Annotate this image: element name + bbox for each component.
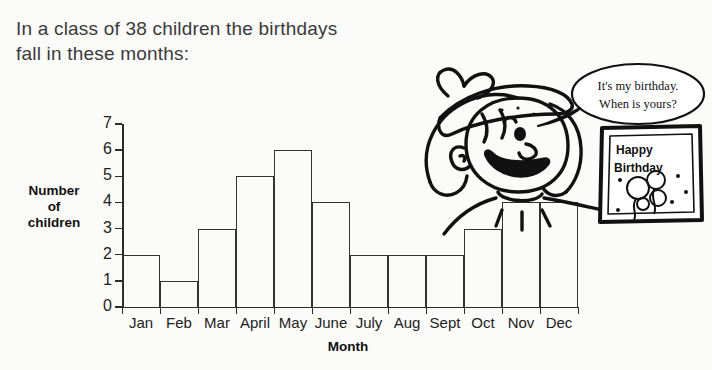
hair-left-bottom <box>430 176 467 195</box>
spark-1 <box>496 210 502 226</box>
y-tick-6 <box>115 149 122 150</box>
speech-bubble-body <box>572 64 704 124</box>
bar-june <box>312 202 350 307</box>
bar-april <box>236 176 274 307</box>
x-tick-end <box>578 307 579 314</box>
x-tick-mar <box>198 307 199 314</box>
y-tick-label-wrap-3: 3 <box>86 220 112 236</box>
x-tick-july <box>350 307 351 314</box>
birthday-card: Happy Birthday <box>600 126 702 222</box>
y-tick-label-wrap-7: 7 <box>86 115 112 131</box>
freckle-2 <box>516 106 519 109</box>
arm-left <box>444 198 496 234</box>
x-tick-label-feb: Feb <box>160 314 198 332</box>
x-tick-nov <box>502 307 503 314</box>
x-axis-title: Month <box>122 339 574 354</box>
x-tick-april <box>236 307 237 314</box>
x-tick-sept <box>426 307 427 314</box>
y-tick-label-6: 6 <box>86 141 112 157</box>
ear-inner <box>460 155 465 161</box>
y-axis-title-line-3: children <box>12 215 96 231</box>
x-tick-label-sept: Sept <box>426 314 464 332</box>
bow-left-loop <box>438 69 464 96</box>
card-line-1: Happy <box>616 143 653 157</box>
x-tick-label-june: June <box>312 314 350 332</box>
bar-feb <box>160 281 198 307</box>
y-axis-title-line-2: of <box>12 199 96 215</box>
fringe-2 <box>500 110 505 138</box>
x-tick-label-may: May <box>274 314 312 332</box>
y-tick-label-2: 2 <box>86 246 112 262</box>
y-tick-label-7: 7 <box>86 115 112 131</box>
hair-right-bottom <box>543 188 566 195</box>
eye-left <box>504 118 516 123</box>
x-tick-label-july: July <box>350 314 388 332</box>
x-tick-label-nov: Nov <box>502 314 540 332</box>
y-axis-title-line-1: Number <box>12 183 96 199</box>
x-tick-label-jan: Jan <box>122 314 160 332</box>
y-tick-label-0: 0 <box>86 298 112 314</box>
bar-may <box>274 150 312 307</box>
y-tick-label-wrap-6: 6 <box>86 141 112 157</box>
y-tick-3 <box>115 228 122 229</box>
x-tick-dec <box>540 307 541 314</box>
freckle-1 <box>500 108 503 111</box>
y-axis-title: Number of children <box>12 183 96 231</box>
nose <box>519 144 536 159</box>
x-tick-label-oct: Oct <box>464 314 502 332</box>
bar-sept <box>426 255 464 307</box>
x-tick-june <box>312 307 313 314</box>
y-tick-label-wrap-0: 0 <box>86 298 112 314</box>
spark-3 <box>542 210 550 226</box>
x-tick-aug <box>388 307 389 314</box>
y-tick-label-1: 1 <box>86 272 112 288</box>
freckle-3 <box>532 112 535 115</box>
x-tick-feb <box>160 307 161 314</box>
speech-line-2: When is yours? <box>599 97 677 111</box>
card-line-2: Birthday <box>614 161 663 175</box>
speech-line-1: It's my birthday. <box>598 79 679 93</box>
y-tick-7 <box>115 123 122 124</box>
eye-right-pupil <box>514 127 526 141</box>
y-tick-1 <box>115 280 122 281</box>
x-tick-jan <box>122 307 123 314</box>
cartoon-illustration: It's my birthday. When is yours? Happy B… <box>400 52 712 252</box>
bar-aug <box>388 255 426 307</box>
bar-mar <box>198 229 236 307</box>
y-tick-4 <box>115 202 122 203</box>
y-tick-label-wrap-2: 2 <box>86 246 112 262</box>
y-tick-label-wrap-5: 5 <box>86 167 112 183</box>
x-tick-oct <box>464 307 465 314</box>
face-outline <box>466 98 568 192</box>
y-tick-0 <box>115 306 122 307</box>
bar-jan <box>122 255 160 307</box>
y-tick-label-4: 4 <box>86 193 112 209</box>
fringe-1 <box>482 114 487 142</box>
x-tick-label-april: April <box>236 314 274 332</box>
y-tick-5 <box>115 176 122 177</box>
x-tick-label-aug: Aug <box>388 314 426 332</box>
x-tick-may <box>274 307 275 314</box>
y-tick-label-wrap-1: 1 <box>86 272 112 288</box>
y-tick-2 <box>115 254 122 255</box>
x-tick-label-dec: Dec <box>540 314 578 332</box>
mouth-smile <box>485 151 548 176</box>
y-tick-label-wrap-4: 4 <box>86 193 112 209</box>
worksheet-page: In a class of 38 children the birthdays … <box>0 0 712 370</box>
bar-july <box>350 255 388 307</box>
x-tick-label-mar: Mar <box>198 314 236 332</box>
y-tick-label-3: 3 <box>86 220 112 236</box>
y-tick-label-5: 5 <box>86 167 112 183</box>
